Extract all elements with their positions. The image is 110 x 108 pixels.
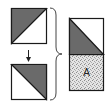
bottom-left-square [12,65,47,100]
result-rectangle: A [70,19,104,91]
top-left-square [12,9,47,44]
down-arrow-icon [26,50,31,62]
curly-brace [50,8,62,100]
quilt-diagram: A [0,0,110,108]
label-a: A [83,67,90,78]
